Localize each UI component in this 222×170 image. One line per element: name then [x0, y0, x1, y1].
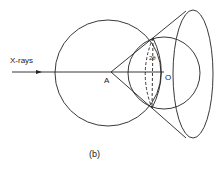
cone-lower [111, 72, 186, 138]
cone-upper [111, 11, 186, 72]
intersection-arc [152, 38, 161, 108]
xrays-label: X-rays [10, 57, 33, 65]
figure-caption: (b) [89, 150, 100, 159]
arrow-head-icon [36, 70, 42, 74]
point-o-label: O [165, 74, 171, 82]
angle-label: 2θ [149, 55, 156, 61]
point-a-label: A [104, 77, 109, 85]
chord-dashed [152, 38, 153, 108]
limiting-circle [128, 37, 200, 109]
ewald-sphere-diagram [0, 0, 222, 170]
intersection-arc-dashed [145, 38, 153, 108]
cone-base [173, 10, 213, 138]
